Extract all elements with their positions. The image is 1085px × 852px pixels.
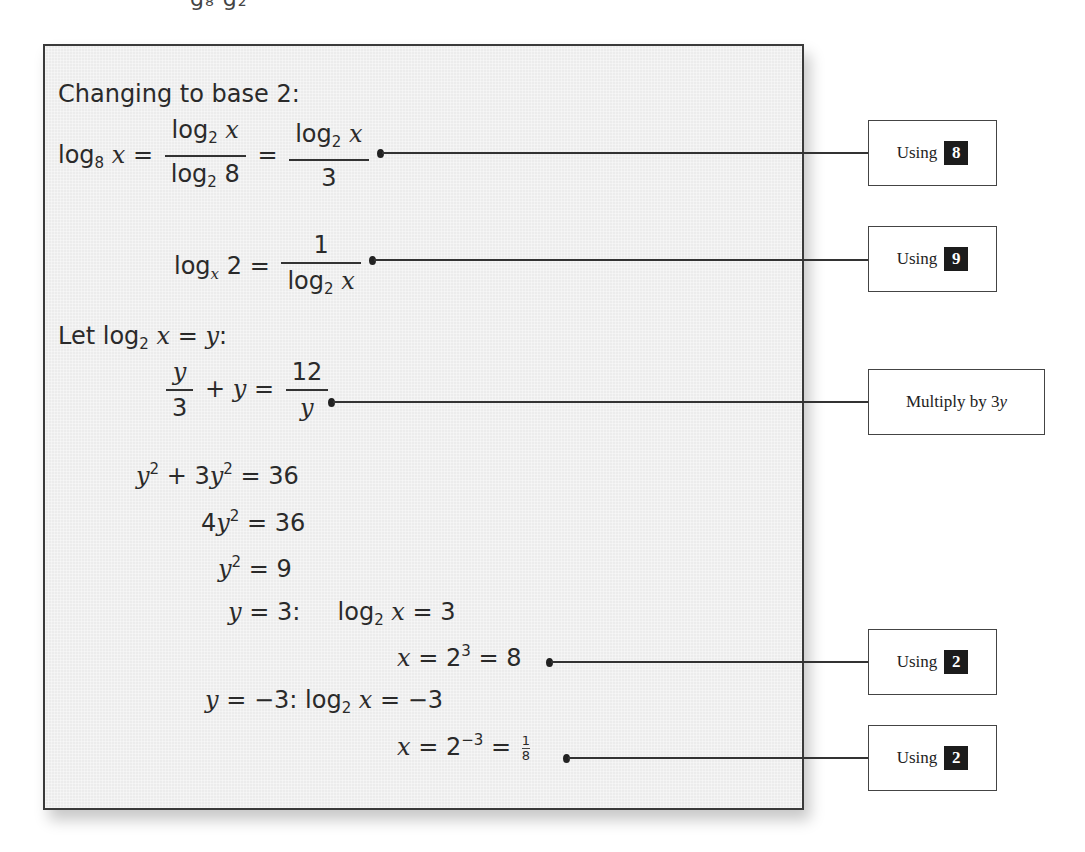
leader-line [374, 259, 869, 261]
case-y-equals-minus-3: y = −3: log2 x = −3 [205, 686, 443, 717]
fraction-one-eighth: 1 8 [522, 734, 530, 763]
solution-x-equals-one-eighth: x = 2−3 = 1 8 [397, 731, 530, 763]
fraction: log2 x log2 8 [165, 113, 246, 199]
cropped-previous-text: g₈ g₂ [190, 0, 248, 11]
reference-badge: 2 [944, 650, 968, 674]
equation-step-6: 4y2 = 36 [201, 507, 305, 537]
leader-line [551, 661, 869, 663]
equation-in-y: y 3 + y = 12 y [162, 355, 332, 425]
callout-multiply-by-3y: Multiply by 3y [868, 369, 1045, 435]
equation-step-7: y2 = 9 [218, 553, 292, 583]
equation-reciprocal-log: logx 2 = 1 log2 x [174, 228, 365, 306]
substitution-statement: Let log2 x = y: [58, 322, 227, 353]
equation-change-of-base-8: log8 x = log2 x log2 8 = log2 x 3 [58, 113, 373, 199]
reference-badge: 8 [944, 141, 968, 165]
callout-using-2-first: Using 2 [868, 629, 997, 695]
reference-badge: 9 [944, 247, 968, 271]
fraction: log2 x 3 [289, 117, 368, 195]
fraction: 1 log2 x [281, 228, 360, 306]
leader-line [382, 152, 869, 154]
leader-line [333, 401, 869, 403]
leader-line [568, 757, 869, 759]
callout-using-2-second: Using 2 [868, 725, 997, 791]
panel-heading: Changing to base 2: [58, 80, 300, 108]
callout-using-8: Using 8 [868, 120, 997, 186]
fraction: 12 y [286, 355, 329, 425]
case-y-equals-3: y = 3: log2 x = 3 [228, 598, 456, 629]
solution-x-equals-8: x = 23 = 8 [397, 642, 521, 672]
equation-step-5: y2 + 3y2 = 36 [136, 460, 299, 490]
fraction: y 3 [166, 355, 193, 425]
reference-badge: 2 [944, 746, 968, 770]
callout-using-9: Using 9 [868, 226, 997, 292]
